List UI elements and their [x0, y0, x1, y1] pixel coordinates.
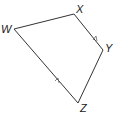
- quadrilateral-diagram: W X Y Z: [0, 0, 118, 118]
- vertex-label-w: W: [1, 23, 13, 35]
- quadrilateral-wxyz: [14, 14, 103, 103]
- parallel-arrow-wz: [55, 78, 59, 83]
- vertex-label-y: Y: [105, 42, 113, 54]
- vertex-label-x: X: [75, 3, 84, 15]
- vertex-label-z: Z: [79, 102, 88, 114]
